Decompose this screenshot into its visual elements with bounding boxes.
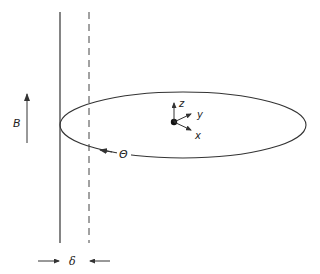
x-axis-label: x	[194, 130, 201, 141]
angle-label: Θ	[119, 148, 128, 161]
gap-label: δ	[69, 255, 76, 268]
y-axis-label: y	[196, 109, 204, 120]
y-axis-arrow-icon	[174, 114, 191, 122]
diagram-canvas: Θ B z y x δ	[0, 0, 320, 274]
z-axis-label: z	[178, 98, 185, 109]
x-axis-arrow-icon	[174, 122, 191, 130]
magnetic-field-label: B	[13, 117, 21, 130]
